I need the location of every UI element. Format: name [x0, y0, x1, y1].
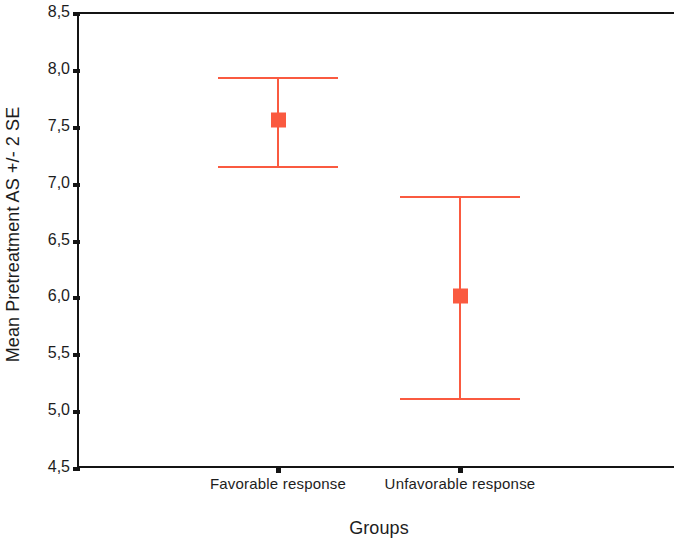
mean-marker	[271, 113, 286, 128]
error-bar-chart: Mean Pretreatment AS +/- 2 SE 8,58,07,57…	[0, 0, 674, 549]
y-axis-tick-mark	[73, 410, 80, 414]
y-axis-tick-label: 8,0	[24, 60, 70, 78]
y-axis-tick-label: 6,5	[24, 231, 70, 249]
x-axis-tick-mark	[276, 467, 281, 473]
y-axis-tick-label: 6,0	[24, 287, 70, 305]
y-axis-tick-mark	[73, 353, 80, 357]
x-axis-category-label: Favorable response	[210, 475, 346, 492]
y-axis-tick-labels: 8,58,07,57,06,56,05,55,04,5	[22, 0, 70, 549]
y-axis-tick-mark	[73, 69, 80, 73]
y-axis-tick-mark	[73, 126, 80, 130]
x-axis-tick-mark	[458, 467, 463, 473]
y-axis-tick-label: 5,0	[24, 401, 70, 419]
plot-area	[77, 12, 674, 467]
x-axis-title-text: Groups	[349, 518, 409, 539]
y-axis-tick-label: 7,0	[24, 174, 70, 192]
y-axis-tick-label: 4,5	[24, 458, 70, 476]
y-axis-tick-mark	[73, 183, 80, 187]
x-axis-category-label: Unfavorable response	[385, 475, 536, 492]
y-axis-tick-label: 7,5	[24, 117, 70, 135]
error-bar-lower-cap	[400, 398, 520, 400]
error-bar-upper-cap	[400, 196, 520, 198]
x-axis-line	[77, 466, 674, 468]
error-bar-upper-cap	[218, 77, 338, 79]
mean-marker	[453, 289, 468, 304]
y-axis-tick-mark	[73, 296, 80, 300]
y-axis-tick-label: 5,5	[24, 344, 70, 362]
y-axis-tick-mark	[73, 240, 80, 244]
error-bar-lower-cap	[218, 166, 338, 168]
y-axis-tick-label: 8,5	[24, 3, 70, 21]
x-axis-title: Groups	[0, 518, 674, 539]
y-axis-tick-mark	[73, 12, 80, 16]
